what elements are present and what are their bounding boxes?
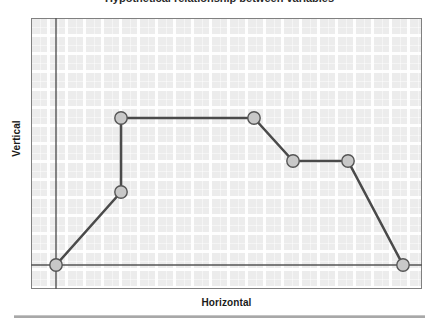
y-axis-label: Vertical [11, 109, 22, 169]
chart-plot-svg [31, 18, 422, 289]
chart-title-cropped: Hypothetical relationship between variab… [0, 0, 439, 6]
data-markers-group [50, 112, 409, 271]
data-point-6 [342, 155, 354, 167]
bottom-divider-rule [14, 315, 425, 318]
data-point-3 [115, 112, 127, 124]
data-point-2 [115, 186, 127, 198]
chart-title-text: Hypothetical relationship between variab… [105, 0, 334, 4]
x-axis-label: Horizontal [31, 297, 422, 308]
data-point-4 [248, 112, 260, 124]
data-point-7 [397, 259, 409, 271]
data-point-1 [50, 259, 62, 271]
figure-container: Hypothetical relationship between variab… [0, 0, 439, 327]
data-point-5 [287, 155, 299, 167]
data-line-series-1 [56, 118, 403, 265]
